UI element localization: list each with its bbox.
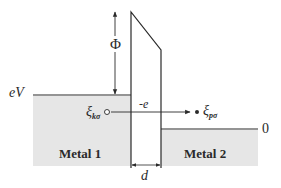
initial-state-label: ξkσ bbox=[86, 105, 100, 121]
metal-1-label: Metal 1 bbox=[59, 147, 101, 160]
initial-state-subscript: kσ bbox=[92, 112, 100, 121]
barrier-width-label: d bbox=[141, 169, 148, 183]
final-state-marker bbox=[195, 110, 199, 114]
barrier-height-label: Φ bbox=[110, 37, 121, 52]
bias-level-label: eV bbox=[9, 86, 24, 100]
tunnel-barrier bbox=[131, 12, 161, 168]
final-state-label: ξpσ bbox=[203, 104, 217, 120]
charge-label: -e bbox=[139, 98, 148, 110]
metal-2-label: Metal 2 bbox=[184, 147, 226, 160]
initial-state-marker bbox=[105, 110, 110, 115]
zero-level-label: 0 bbox=[262, 122, 269, 136]
tunnel-diagram-canvas bbox=[0, 0, 281, 188]
final-state-subscript: pσ bbox=[209, 111, 217, 120]
